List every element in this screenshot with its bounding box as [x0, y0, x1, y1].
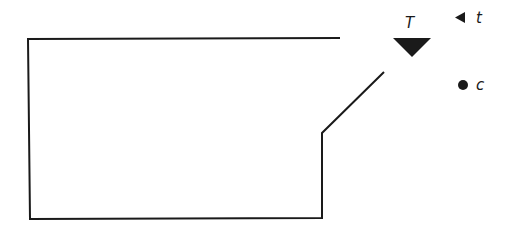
- dot-icon: [458, 80, 468, 90]
- triangle-label: T: [405, 14, 416, 32]
- diagram-canvas: T t c: [0, 0, 515, 236]
- down-triangle-icon: [393, 38, 431, 57]
- outline-path: [28, 38, 384, 219]
- legend-label-c: c: [476, 76, 485, 94]
- left-triangle-icon: [455, 12, 465, 23]
- legend-label-t: t: [476, 9, 483, 27]
